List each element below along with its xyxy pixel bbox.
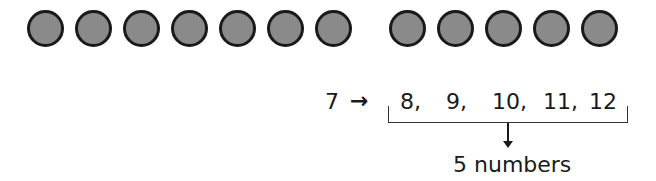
counter-circle: [75, 10, 112, 47]
counter-circle: [27, 10, 64, 47]
counter-circle: [437, 10, 474, 47]
counter-circle: [315, 10, 352, 47]
counter-circle: [219, 10, 256, 47]
counter-circle: [533, 10, 570, 47]
counter-circle: [485, 10, 522, 47]
down-arrow-head: [503, 141, 513, 148]
counter-circle: [123, 10, 160, 47]
start-number: 7: [325, 91, 339, 113]
counter-circle: [389, 10, 426, 47]
counter-circle: [267, 10, 304, 47]
counter-circle: [171, 10, 208, 47]
right-arrow-icon: →: [350, 90, 368, 112]
grouping-bracket: [388, 106, 628, 123]
result-label: 5 numbers: [453, 154, 571, 176]
counter-circle: [581, 10, 618, 47]
